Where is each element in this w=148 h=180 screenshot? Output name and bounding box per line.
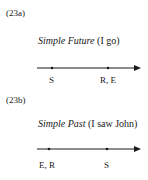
point-s	[106, 148, 109, 151]
timeline-23b	[0, 0, 148, 180]
point-er	[48, 148, 51, 151]
arrowhead-icon	[134, 146, 141, 152]
point-label-s: S	[104, 160, 109, 170]
point-label-er: E, R	[39, 160, 55, 170]
